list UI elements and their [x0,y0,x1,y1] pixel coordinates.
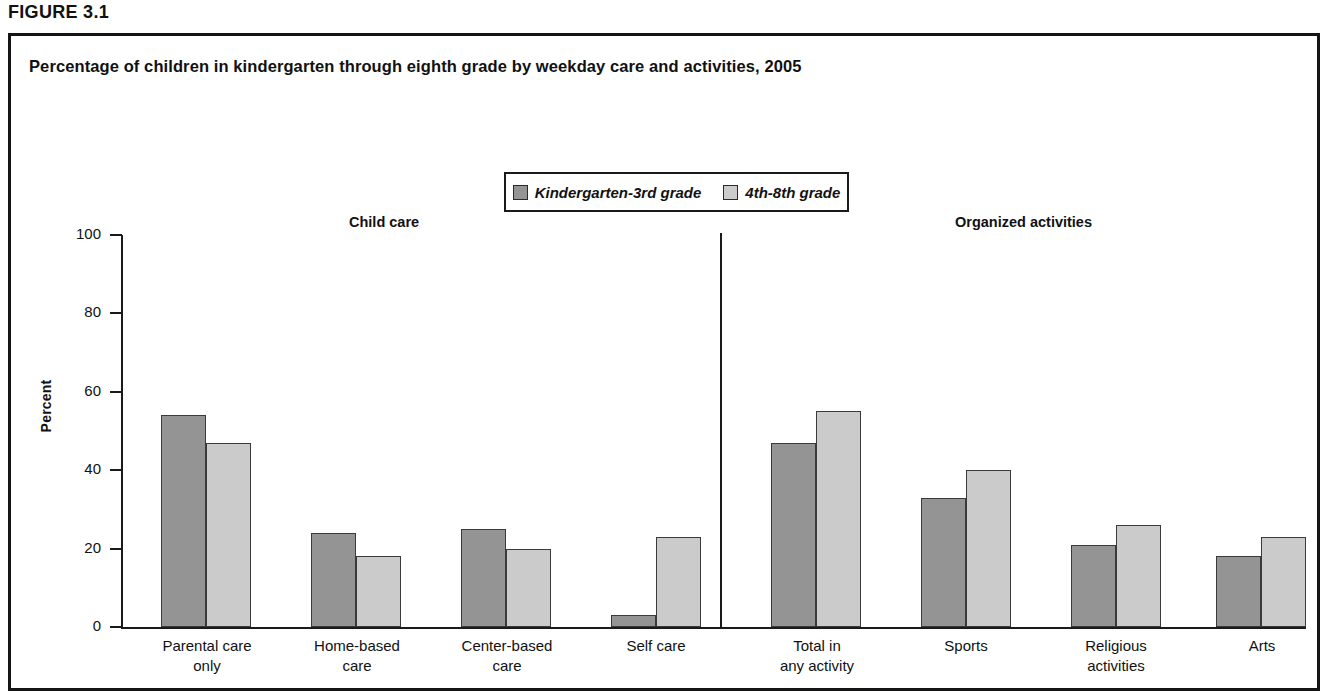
bar-0-7 [1216,556,1261,627]
bar-0-0 [161,415,206,627]
bar-0-5 [921,498,966,627]
section-heading-organized-activities: Organized activities [955,214,1092,230]
y-axis-tick-80 [110,312,122,314]
y-axis-label-40: 40 [53,460,101,477]
x-axis-label-0: Parental care only [132,636,282,676]
y-axis-tick-60 [110,391,122,393]
bar-0-3 [611,615,656,627]
x-axis-label-5: Sports [891,636,1041,656]
bar-1-0 [206,443,251,627]
bar-1-6 [1116,525,1161,627]
y-axis-title: Percent [38,361,54,451]
y-axis-label-100: 100 [53,225,101,242]
bar-1-2 [506,549,551,627]
bar-1-1 [356,556,401,627]
x-axis-label-6: Religious activities [1041,636,1191,676]
y-axis-label-20: 20 [53,539,101,556]
bar-1-3 [656,537,701,627]
section-heading-child-care: Child care [349,214,419,230]
bar-1-5 [966,470,1011,627]
bar-0-6 [1071,545,1116,627]
y-axis-label-80: 80 [53,303,101,320]
plot-area: Percent 100806040200 Child careOrganized… [11,36,1323,694]
section-divider [720,233,722,627]
y-axis-label-60: 60 [53,382,101,399]
y-axis-tick-40 [110,469,122,471]
bar-0-1 [311,533,356,627]
x-axis-label-4: Total in any activity [742,636,892,676]
y-axis-tick-100 [110,234,122,236]
y-axis-label-0: 0 [53,617,101,634]
x-axis-label-3: Self care [581,636,731,656]
x-axis-label-2: Center-based care [432,636,582,676]
figure-panel: Percentage of children in kindergarten t… [8,33,1320,691]
figure-label: FIGURE 3.1 [8,2,109,23]
bar-1-7 [1261,537,1306,627]
bar-0-4 [771,443,816,627]
bar-0-2 [461,529,506,627]
x-axis-label-1: Home-based care [282,636,432,676]
y-axis-tick-20 [110,548,122,550]
x-axis-label-7: Arts [1187,636,1328,656]
x-axis-line [121,627,1306,629]
bar-1-4 [816,411,861,627]
y-axis-tick-0 [110,626,122,628]
y-axis-line [121,235,123,628]
